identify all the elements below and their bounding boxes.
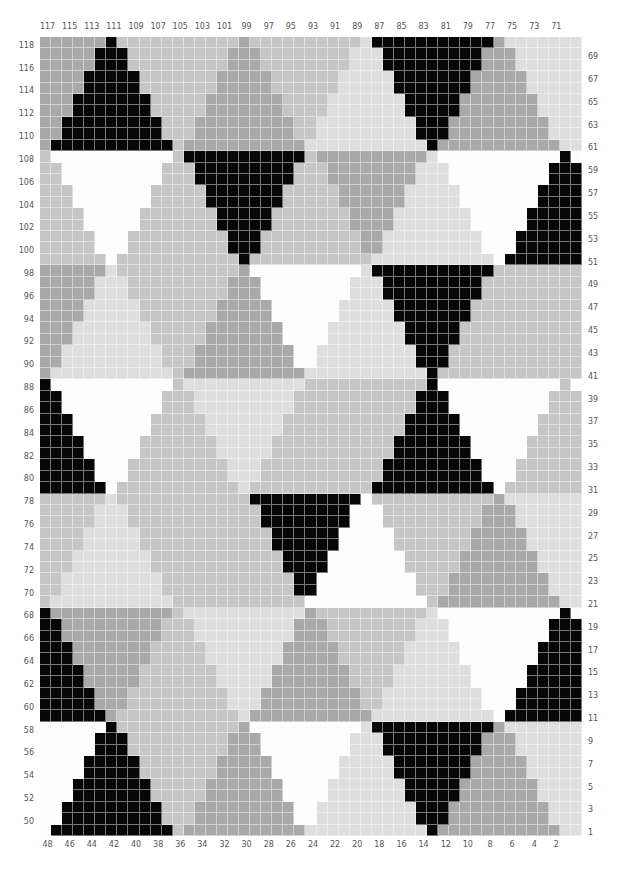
grid-cell bbox=[471, 185, 482, 196]
grid-cell bbox=[283, 300, 294, 311]
grid-cell bbox=[361, 288, 372, 299]
grid-cell bbox=[73, 117, 84, 128]
grid-cell bbox=[250, 265, 261, 276]
grid-cell bbox=[272, 665, 283, 676]
grid-cell bbox=[494, 197, 505, 208]
grid-cell bbox=[482, 699, 493, 710]
grid-cell bbox=[339, 208, 350, 219]
grid-cell bbox=[173, 665, 184, 676]
grid-cell bbox=[549, 459, 560, 470]
grid-cell bbox=[361, 585, 372, 596]
grid-cell bbox=[40, 539, 51, 550]
grid-cell bbox=[305, 322, 316, 333]
grid-cell bbox=[51, 71, 62, 82]
grid-cell bbox=[305, 699, 316, 710]
grid-cell bbox=[206, 197, 217, 208]
grid-cell bbox=[328, 231, 339, 242]
grid-cell bbox=[449, 688, 460, 699]
grid-cell bbox=[516, 83, 527, 94]
grid-cell bbox=[239, 539, 250, 550]
grid-cell bbox=[361, 117, 372, 128]
left-axis-label: 112 bbox=[6, 109, 34, 118]
grid-cell bbox=[427, 562, 438, 573]
grid-cell bbox=[571, 573, 582, 584]
grid-cell bbox=[394, 825, 405, 836]
grid-cell bbox=[217, 37, 228, 48]
grid-cell bbox=[294, 117, 305, 128]
grid-cell bbox=[317, 94, 328, 105]
grid-cell bbox=[206, 265, 217, 276]
bottom-axis-label: 46 bbox=[65, 840, 75, 849]
grid-cell bbox=[416, 242, 427, 253]
grid-cell bbox=[538, 516, 549, 527]
grid-cell bbox=[471, 745, 482, 756]
grid-cell bbox=[106, 48, 117, 59]
grid-cell bbox=[416, 448, 427, 459]
grid-cell bbox=[217, 688, 228, 699]
grid-cell bbox=[317, 585, 328, 596]
grid-cell bbox=[538, 242, 549, 253]
grid-cell bbox=[272, 471, 283, 482]
grid-cell bbox=[62, 231, 73, 242]
grid-cell bbox=[206, 653, 217, 664]
grid-cell bbox=[372, 745, 383, 756]
grid-cell bbox=[40, 436, 51, 447]
grid-cell bbox=[328, 322, 339, 333]
bottom-axis-label: 30 bbox=[242, 840, 252, 849]
grid-cell bbox=[195, 733, 206, 744]
grid-cell bbox=[73, 710, 84, 721]
grid-cell bbox=[383, 779, 394, 790]
grid-cell bbox=[427, 174, 438, 185]
grid-cell bbox=[62, 494, 73, 505]
grid-cell bbox=[173, 105, 184, 116]
grid-cell bbox=[482, 402, 493, 413]
grid-cell bbox=[173, 254, 184, 265]
grid-cell bbox=[106, 448, 117, 459]
grid-cell bbox=[151, 631, 162, 642]
grid-cell bbox=[217, 551, 228, 562]
grid-cell bbox=[339, 334, 350, 345]
grid-cell bbox=[339, 551, 350, 562]
grid-cell bbox=[405, 813, 416, 824]
grid-cell bbox=[383, 391, 394, 402]
grid-cell bbox=[261, 345, 272, 356]
grid-cell bbox=[62, 402, 73, 413]
grid-cell bbox=[51, 756, 62, 767]
grid-cell bbox=[217, 505, 228, 516]
grid-cell bbox=[239, 128, 250, 139]
grid-cell bbox=[106, 414, 117, 425]
grid-cell bbox=[228, 790, 239, 801]
grid-cell bbox=[538, 459, 549, 470]
grid-cell bbox=[449, 185, 460, 196]
grid-cell bbox=[328, 197, 339, 208]
grid-cell bbox=[394, 368, 405, 379]
grid-cell bbox=[494, 425, 505, 436]
grid-cell bbox=[261, 471, 272, 482]
grid-cell bbox=[361, 631, 372, 642]
grid-cell bbox=[328, 699, 339, 710]
grid-cell bbox=[84, 322, 95, 333]
grid-cell bbox=[106, 722, 117, 733]
grid-cell bbox=[449, 208, 460, 219]
grid-cell bbox=[394, 494, 405, 505]
grid-cell bbox=[184, 300, 195, 311]
grid-cell bbox=[228, 733, 239, 744]
grid-cell bbox=[162, 48, 173, 59]
grid-cell bbox=[40, 425, 51, 436]
grid-cell bbox=[372, 813, 383, 824]
grid-cell bbox=[206, 220, 217, 231]
grid-cell bbox=[460, 322, 471, 333]
grid-cell bbox=[173, 494, 184, 505]
grid-cell bbox=[383, 745, 394, 756]
grid-cell bbox=[228, 402, 239, 413]
grid-cell bbox=[305, 448, 316, 459]
grid-cell bbox=[560, 596, 571, 607]
grid-cell bbox=[184, 825, 195, 836]
grid-cell bbox=[95, 322, 106, 333]
grid-cell bbox=[383, 482, 394, 493]
grid-cell bbox=[195, 802, 206, 813]
grid-cell bbox=[460, 699, 471, 710]
grid-cell bbox=[505, 185, 516, 196]
grid-cell bbox=[140, 277, 151, 288]
grid-cell bbox=[438, 505, 449, 516]
